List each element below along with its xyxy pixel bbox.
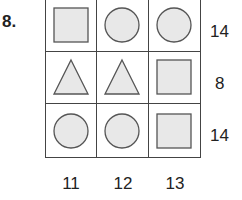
grid-cell-r3-c1 <box>46 104 97 157</box>
square-icon <box>154 111 194 151</box>
grid-cell-r2-c1 <box>46 52 97 105</box>
circle-icon <box>154 5 194 45</box>
grid-cell-r1-c2 <box>97 0 148 52</box>
row-sum-1: 14 <box>210 22 229 42</box>
square-icon <box>51 5 91 45</box>
grid-cell-r1-c3 <box>149 0 200 52</box>
grid-cell-r3-c2 <box>97 104 148 157</box>
grid-cell-r2-c2 <box>97 52 148 105</box>
column-sum-2: 12 <box>97 174 149 194</box>
question-number: 8. <box>2 12 16 32</box>
grid-cell-r2-c3 <box>149 52 200 105</box>
row-sum-2: 8 <box>215 74 224 94</box>
column-sum-3: 13 <box>149 174 201 194</box>
circle-icon <box>51 111 91 151</box>
column-sum-1: 11 <box>45 174 97 194</box>
triangle-icon <box>102 57 142 97</box>
square-icon <box>154 57 194 97</box>
circle-icon <box>102 111 142 151</box>
triangle-icon <box>51 57 91 97</box>
shape-grid <box>45 0 201 158</box>
circle-icon <box>102 5 142 45</box>
row-sum-3: 14 <box>210 126 229 146</box>
grid-cell-r3-c3 <box>149 104 200 157</box>
grid-cell-r1-c1 <box>46 0 97 52</box>
